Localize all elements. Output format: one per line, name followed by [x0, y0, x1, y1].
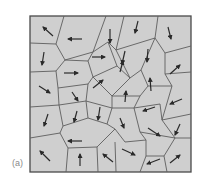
panel-label: (a) — [12, 158, 23, 168]
voronoi-arrow-diagram — [0, 0, 204, 186]
